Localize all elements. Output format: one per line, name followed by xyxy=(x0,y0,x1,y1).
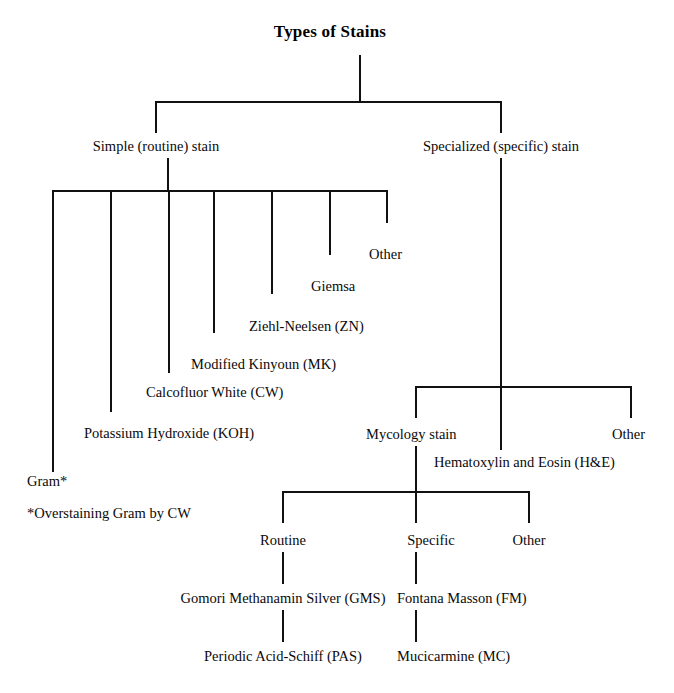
connector-simple-leg-zn xyxy=(271,190,273,294)
connector-specialized-leg-other xyxy=(630,386,632,418)
connector-specialized-leg-mycology xyxy=(415,386,417,418)
node-calcofluor-white: Calcofluor White (CW) xyxy=(146,385,283,400)
connector-mycology-leg-routine xyxy=(282,491,284,523)
footnote-overstaining: *Overstaining Gram by CW xyxy=(27,506,191,521)
connector-mycology-leg-specific xyxy=(415,491,417,523)
stains-taxonomy-diagram: Types of Stains Simple (routine) stain S… xyxy=(0,0,674,693)
page-title: Types of Stains xyxy=(274,22,386,42)
connector-mycology-fan-bar xyxy=(282,491,529,493)
node-other-simple: Other xyxy=(369,247,402,262)
node-gram: Gram* xyxy=(27,474,67,489)
connector-mycology-stem xyxy=(415,446,417,492)
node-periodic-acid-schiff: Periodic Acid-Schiff (PAS) xyxy=(204,649,362,664)
connector-root-to-specialized xyxy=(500,101,502,133)
node-mycology-stain: Mycology stain xyxy=(366,427,457,442)
connector-specialized-stem xyxy=(500,158,502,387)
connector-root-to-simple xyxy=(155,101,157,133)
connector-simple-leg-giemsa xyxy=(329,190,331,255)
node-potassium-hydroxide: Potassium Hydroxide (KOH) xyxy=(84,426,254,441)
connector-simple-leg-koh xyxy=(110,190,112,412)
connector-gms-to-pas xyxy=(282,610,284,642)
node-specific: Specific xyxy=(407,533,455,548)
connector-specific-to-fm xyxy=(415,552,417,584)
connector-simple-leg-other xyxy=(386,190,388,223)
node-giemsa: Giemsa xyxy=(311,279,355,294)
node-modified-kinyoun: Modified Kinyoun (MK) xyxy=(191,357,336,372)
node-specialized-specific-stain: Specialized (specific) stain xyxy=(423,139,579,154)
connector-simple-leg-mk xyxy=(213,190,215,333)
connector-root-stem xyxy=(359,55,361,103)
node-simple-routine-stain: Simple (routine) stain xyxy=(93,139,219,154)
connector-specialized-fan-bar xyxy=(415,386,632,388)
node-hematoxylin-eosin: Hematoxylin and Eosin (H&E) xyxy=(434,455,615,470)
node-routine: Routine xyxy=(260,533,306,548)
node-gomori-methanamin-silver: Gomori Methanamin Silver (GMS) xyxy=(181,591,386,606)
connector-specialized-leg-he xyxy=(500,386,502,450)
node-mucicarmine: Mucicarmine (MC) xyxy=(397,649,510,664)
connector-root-bar xyxy=(155,101,502,103)
connector-fm-to-mc xyxy=(415,610,417,642)
connector-simple-fan-bar xyxy=(52,190,388,192)
connector-simple-stem xyxy=(167,158,169,191)
node-other-specialized: Other xyxy=(612,427,645,442)
connector-simple-leg-gram xyxy=(52,190,54,472)
connector-mycology-leg-other xyxy=(528,491,530,523)
node-other-mycology: Other xyxy=(512,533,545,548)
node-fontana-masson: Fontana Masson (FM) xyxy=(397,591,527,606)
connector-routine-to-gms xyxy=(282,552,284,584)
node-ziehl-neelsen: Ziehl-Neelsen (ZN) xyxy=(249,319,364,334)
connector-simple-leg-cw xyxy=(168,190,170,373)
